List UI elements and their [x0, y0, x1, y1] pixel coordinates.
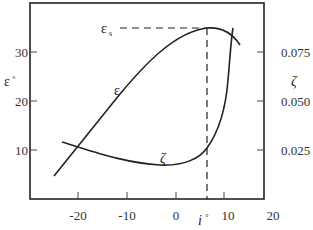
y-left-ticks	[30, 52, 37, 150]
y-right-tick-0025: 0.025	[281, 143, 310, 158]
eps-s-label: εs	[101, 21, 112, 38]
zeta-curve-label: ζ	[160, 151, 167, 166]
x-tick-neg20: -20	[69, 208, 86, 223]
y-left-tick-10: 10	[15, 143, 28, 158]
x-axis-label: i°	[198, 212, 209, 228]
x-tick-10: 10	[222, 208, 235, 223]
y-right-ticks	[257, 52, 264, 150]
x-tick-0: 0	[173, 208, 180, 223]
epsilon-curve	[54, 28, 240, 176]
zeta-curve	[62, 28, 233, 165]
x-ticks	[78, 192, 224, 199]
y-right-axis-label: ζ	[291, 74, 298, 89]
chart: 30 20 10 0.075 0.050 0.025 -20 -10 0 10 …	[0, 0, 313, 230]
y-left-tick-20: 20	[15, 94, 28, 109]
y-right-tick-0050: 0.050	[281, 94, 310, 109]
y-left-axis-label: ε°	[4, 74, 16, 89]
x-tick-neg10: -10	[118, 208, 135, 223]
y-left-tick-30: 30	[15, 45, 28, 60]
epsilon-curve-label: ε	[114, 83, 120, 98]
y-right-tick-0075: 0.075	[281, 45, 310, 60]
x-tick-20: 20	[267, 208, 280, 223]
